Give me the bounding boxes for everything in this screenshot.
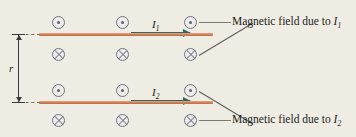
callout-label-1-text: Magnetic field due to xyxy=(232,15,334,27)
wire-carrying-i1 xyxy=(39,33,213,36)
dot-in-circle-icon xyxy=(189,89,192,92)
field-symbol-into-page xyxy=(184,114,197,127)
magnetic-field-diagram: I1 I2 r Magnetic field due to I1 xyxy=(0,0,356,137)
distance-label-r: r xyxy=(9,62,13,74)
field-symbol-into-page xyxy=(184,48,197,61)
dimension-line-r xyxy=(18,35,19,102)
dot-in-circle-icon xyxy=(121,21,124,24)
field-symbol-into-page xyxy=(116,48,129,61)
dot-in-circle-icon xyxy=(57,21,60,24)
callout-label-2: Magnetic field due to I2 xyxy=(232,113,341,128)
field-symbol-out-of-page xyxy=(116,84,129,97)
dimension-arrow-up-icon xyxy=(16,35,22,40)
dimension-arrow-down-icon xyxy=(16,97,22,102)
dot-in-circle-icon xyxy=(189,21,192,24)
dot-in-circle-icon xyxy=(121,89,124,92)
field-symbol-into-page xyxy=(52,114,65,127)
callout-leader-1a xyxy=(199,22,231,23)
field-symbol-into-page xyxy=(52,48,65,61)
callout-label-1-subscript: 1 xyxy=(337,21,341,30)
wire-carrying-i2 xyxy=(39,101,213,104)
dimension-cap-bottom xyxy=(12,102,25,103)
field-symbol-into-page xyxy=(116,114,129,127)
dot-in-circle-icon xyxy=(57,89,60,92)
field-symbol-out-of-page xyxy=(116,16,129,29)
callout-label-2-subscript: 2 xyxy=(337,119,341,128)
callout-label-2-text: Magnetic field due to xyxy=(232,113,334,125)
field-symbol-out-of-page xyxy=(52,84,65,97)
callout-leader-2b xyxy=(199,120,231,121)
callout-label-1: Magnetic field due to I1 xyxy=(232,15,341,30)
field-symbol-out-of-page xyxy=(52,16,65,29)
